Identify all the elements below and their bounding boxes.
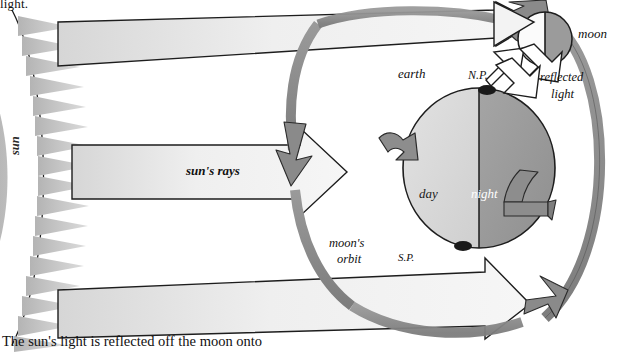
- earth-globe: [403, 85, 555, 251]
- sun-body: [0, 6, 44, 348]
- moon-label: moon: [578, 26, 607, 42]
- earth-label: earth: [398, 66, 425, 82]
- south-pole-label: S.P.: [398, 251, 414, 263]
- sun-ray-bottom: [58, 258, 530, 339]
- moons-orbit-label-line2: orbit: [337, 252, 361, 267]
- earth-rotation-arrow-left: [379, 133, 418, 160]
- reflected-label: reflected: [540, 70, 583, 85]
- figure-caption: The sun's light is reflected off the moo…: [2, 333, 262, 350]
- day-label: day: [419, 186, 438, 202]
- suns-rays-label: sun's rays: [186, 163, 240, 179]
- north-pole-label: N.P.: [468, 68, 488, 83]
- astronomy-diagram-canvas: light. earth N.P. S.P. day night moon re…: [0, 0, 625, 353]
- moons-orbit-label-line1: moon's: [329, 236, 364, 251]
- north-pole-marker: [478, 85, 496, 95]
- cropped-top-text: light.: [0, 0, 28, 12]
- diagram-svg: [0, 0, 625, 353]
- night-label: night: [471, 186, 498, 202]
- south-pole-marker: [454, 241, 472, 251]
- light-label: light: [551, 87, 574, 102]
- sun-label: sun: [8, 136, 23, 155]
